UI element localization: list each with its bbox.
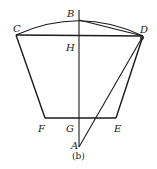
- label-c: C: [13, 23, 21, 34]
- segment-ad: [79, 36, 143, 147]
- label-d: D: [139, 24, 148, 35]
- figure-caption: (b): [72, 151, 85, 161]
- label-f: F: [37, 123, 46, 134]
- label-a: A: [70, 140, 78, 151]
- label-b: B: [66, 8, 74, 19]
- label-e: E: [113, 123, 122, 134]
- segment-bd: [79, 20, 143, 36]
- segment-ed: [116, 36, 143, 118]
- geometry-diagram: B C D H F G E A (b): [0, 0, 157, 169]
- segment-cf: [16, 35, 45, 118]
- label-g: G: [66, 123, 74, 134]
- label-h: H: [65, 42, 75, 53]
